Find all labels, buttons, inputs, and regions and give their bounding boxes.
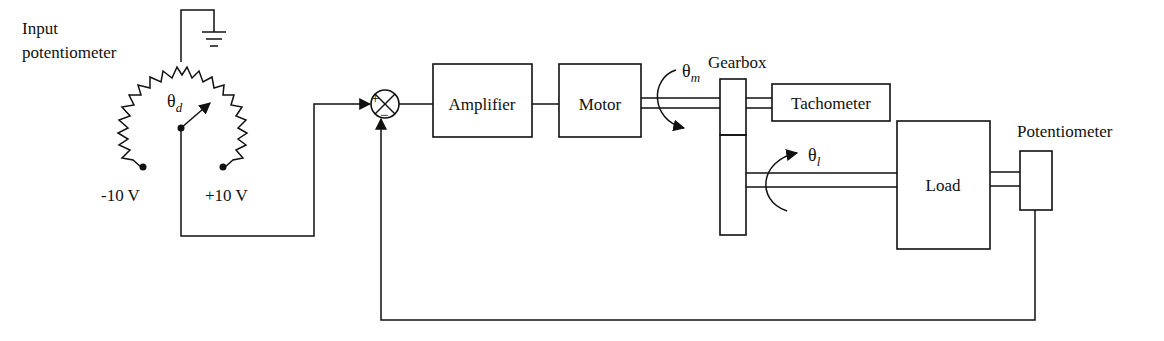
motor-shaft: [641, 98, 720, 108]
tachometer-shaft: [746, 98, 772, 108]
amplifier-label: Amplifier: [448, 95, 515, 114]
output-potentiometer-block: [1020, 151, 1052, 210]
load-rotation-arrow-icon: [766, 153, 797, 211]
input-potentiometer-label-line2: potentiometer: [22, 43, 117, 62]
pos-terminal-dot: [220, 164, 227, 171]
output-pot-shaft: [990, 172, 1020, 186]
gearbox: [720, 79, 746, 235]
motor-label: Motor: [579, 95, 622, 114]
theta-m-label: θm: [682, 61, 700, 85]
motor-rotation-arrow-icon: [657, 70, 684, 128]
wiper-arrow-icon: [181, 103, 210, 128]
summing-plus-sign: +: [371, 90, 379, 106]
pos-voltage-label: +10 V: [205, 186, 249, 205]
input-potentiometer-resistor-icon: [118, 67, 247, 167]
theta-l-label: θl: [808, 145, 821, 169]
theta-d-label: θd: [167, 91, 183, 115]
load-shaft: [746, 173, 897, 187]
feedback-wire: [381, 119, 1035, 320]
load-label: Load: [926, 176, 961, 195]
neg-terminal-dot: [140, 164, 147, 171]
ground-icon: [202, 32, 226, 46]
ground-wire: [181, 10, 214, 62]
reference-signal-wire: [181, 104, 370, 236]
output-potentiometer-label: Potentiometer: [1017, 122, 1113, 141]
gearbox-label: Gearbox: [708, 53, 767, 72]
summing-minus-sign: −: [380, 107, 388, 123]
tachometer-label: Tachometer: [791, 94, 871, 113]
input-potentiometer-label-line1: Input: [22, 19, 58, 38]
control-system-diagram: Input potentiometer θd -10 V +10 V + − A…: [0, 0, 1164, 341]
neg-voltage-label: -10 V: [101, 186, 141, 205]
